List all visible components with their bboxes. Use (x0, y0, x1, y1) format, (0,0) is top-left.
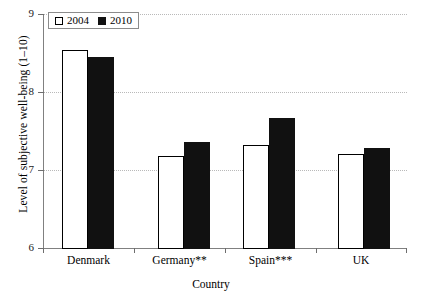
bar-uk-2010 (364, 148, 390, 249)
y-tick-label-6: 6 (12, 242, 34, 253)
y-tick-8 (38, 92, 44, 93)
y-tick-label-9: 9 (12, 8, 34, 19)
x-tick-4 (406, 248, 407, 253)
legend: 2004 2010 (48, 12, 139, 29)
bar-spain-2004 (243, 145, 269, 249)
x-label-denmark: Denmark (43, 254, 134, 266)
x-tick-0 (43, 248, 44, 253)
x-axis-title: Country (0, 278, 422, 290)
legend-label-2004: 2004 (67, 15, 89, 26)
x-tick-3 (316, 248, 317, 253)
x-label-uk: UK (316, 254, 406, 266)
x-tick-2 (225, 248, 226, 253)
bar-germany-2004 (158, 156, 184, 249)
y-tick-7 (38, 170, 44, 171)
legend-swatch-hollow-icon (55, 17, 63, 25)
x-label-spain: Spain*** (225, 254, 316, 266)
bar-germany-2010 (184, 142, 210, 249)
y-axis-title: Level of subjective well-being (1–10) (17, 19, 29, 229)
y-axis-line (43, 14, 44, 249)
x-tick-1 (134, 248, 135, 253)
legend-label-2010: 2010 (110, 15, 132, 26)
bar-chart: 9 8 7 6 Denmark Germany** Spain*** UK Le… (0, 0, 422, 301)
bar-denmark-2004 (62, 50, 88, 249)
legend-item-2004: 2004 (55, 15, 89, 26)
legend-item-2010: 2010 (98, 15, 132, 26)
legend-swatch-filled-icon (98, 17, 106, 25)
y-tick-9 (38, 14, 44, 15)
x-label-germany: Germany** (134, 254, 225, 266)
bar-uk-2004 (338, 154, 364, 249)
bar-denmark-2010 (88, 57, 114, 249)
bar-spain-2010 (269, 118, 295, 249)
